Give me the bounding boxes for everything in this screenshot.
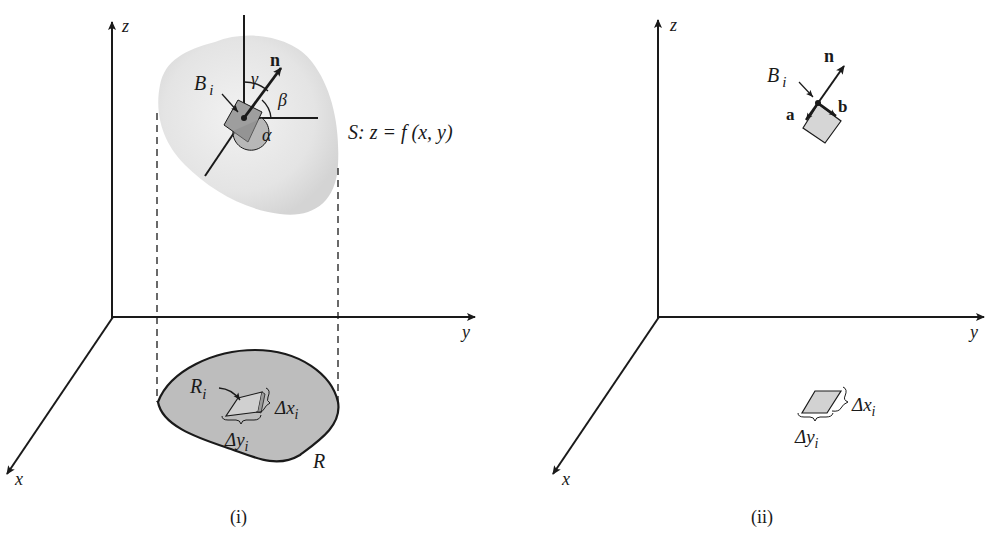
gamma-label: γ — [251, 69, 259, 89]
point-bi — [241, 115, 247, 121]
vector-b-label: b — [838, 97, 847, 116]
patch-bi — [803, 104, 841, 143]
bi-pointer-arrow — [799, 82, 813, 97]
surface-integral-diagram: z y x Ri Δxi Δyi R — [0, 0, 990, 543]
normal-n-label: n — [270, 50, 280, 70]
y-axis-label: y — [968, 322, 978, 342]
panel-ii: z y x n a b Bi Δxi Δyi (ii) — [553, 15, 984, 528]
brace-dy — [798, 413, 833, 421]
x-axis-label: x — [14, 469, 23, 489]
x-axis — [7, 317, 113, 474]
region-r-label: R — [312, 450, 325, 472]
vector-a-label: a — [786, 105, 795, 124]
delta-x-label: Δxi — [851, 394, 876, 419]
z-axis-label: z — [669, 15, 677, 35]
caption-i: (i) — [230, 507, 247, 528]
surface-equation-label: S: z = f (x, y) — [348, 121, 453, 144]
delta-y-label: Δyi — [794, 426, 819, 451]
normal-n-label: n — [824, 46, 834, 66]
patch-bi-label: Bi — [767, 64, 786, 90]
panel-i: z y x Ri Δxi Δyi R — [7, 15, 475, 528]
y-axis-label: y — [460, 322, 470, 342]
projected-patch — [802, 391, 841, 413]
caption-ii: (ii) — [751, 507, 773, 528]
point-bi — [815, 100, 821, 106]
z-axis-label: z — [121, 16, 129, 36]
alpha-label: α — [262, 125, 272, 145]
x-axis-label: x — [561, 469, 570, 489]
x-axis — [553, 317, 659, 474]
beta-label: β — [277, 90, 287, 110]
